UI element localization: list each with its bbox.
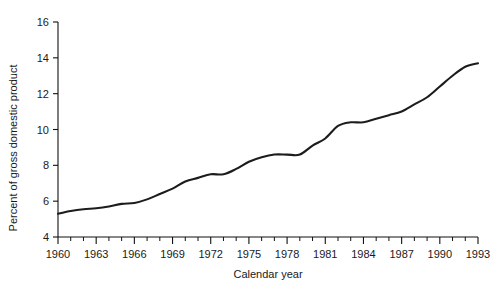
y-axis-tick-label: 8 (43, 159, 49, 171)
y-axis-title: Percent of gross domestic product (7, 65, 19, 232)
y-axis-tick-label: 4 (43, 231, 49, 243)
y-axis-tick-label: 14 (37, 52, 49, 64)
y-axis-tick-label: 16 (37, 16, 49, 28)
x-axis-tick-label: 1984 (351, 248, 375, 260)
x-axis-tick-label: 1966 (122, 248, 146, 260)
line-chart-svg: 46810121416 1960196319661969197219751978… (0, 0, 502, 289)
x-axis-tick-label: 1990 (428, 248, 452, 260)
y-axis-tick-label: 10 (37, 124, 49, 136)
x-axis-tick-label: 1978 (275, 248, 299, 260)
x-axis-tick-label: 1969 (160, 248, 184, 260)
y-axis-tick-label: 6 (43, 195, 49, 207)
chart-figure: 46810121416 1960196319661969197219751978… (0, 0, 502, 289)
x-axis-title: Calendar year (233, 268, 302, 280)
x-axis-tick-label: 1972 (198, 248, 222, 260)
x-axis-tick-label: 1960 (46, 248, 70, 260)
x-axis-tick-label: 1987 (389, 248, 413, 260)
x-axis-tick-label: 1975 (237, 248, 261, 260)
x-axis-tick-label: 1981 (313, 248, 337, 260)
x-axis-tick-label: 1993 (466, 248, 490, 260)
y-axis-tick-label: 12 (37, 88, 49, 100)
x-axis-tick-label: 1963 (84, 248, 108, 260)
chart-background (0, 0, 502, 289)
